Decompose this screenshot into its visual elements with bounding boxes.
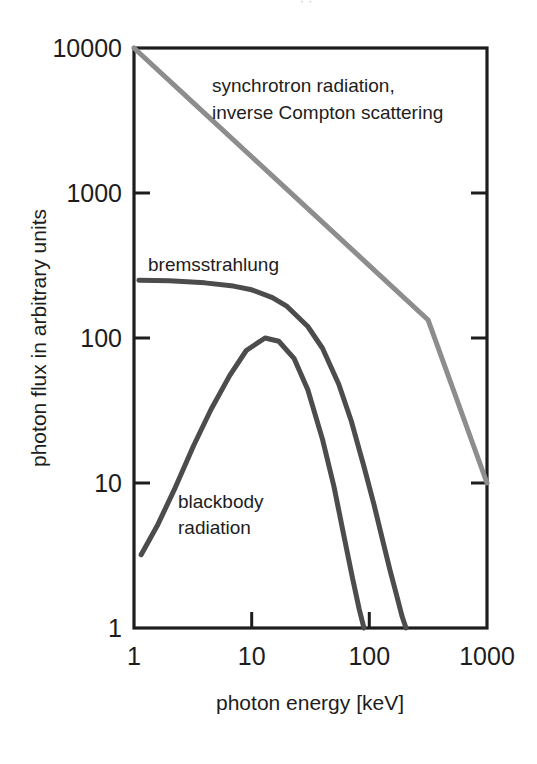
annotation-bremsstrahlung: bremsstrahlung: [148, 254, 279, 275]
y-axis-ticks-left: [134, 193, 150, 483]
y-tick-label-10000: 10000: [52, 34, 122, 62]
annotation-synchrotron-line2: inverse Compton scattering: [212, 102, 443, 123]
y-axis-title: photon flux in arbitrary units: [27, 209, 50, 467]
series-blackbody-line: [141, 338, 364, 628]
annotation-blackbody: blackbody radiation: [178, 491, 264, 538]
chart-svg: 10000 1000 100 10 1 1 10 100 1000 photon…: [0, 0, 537, 764]
x-tick-label-10: 10: [238, 642, 266, 670]
x-tick-label-100: 100: [348, 642, 390, 670]
y-tick-label-100: 100: [80, 324, 122, 352]
y-tick-label-1: 1: [108, 614, 122, 642]
x-tick-label-1000: 1000: [459, 642, 515, 670]
y-tick-label-1000: 1000: [66, 179, 122, 207]
annotation-blackbody-line1: blackbody: [178, 491, 264, 512]
y-tick-label-10: 10: [94, 469, 122, 497]
x-tick-label-1: 1: [127, 642, 141, 670]
annotation-synchrotron-line1: synchrotron radiation,: [212, 75, 395, 96]
figure-container: · · 10000 1000 100 10 1 1 10 100: [0, 0, 537, 764]
page-bleed-text: · ·: [300, 0, 530, 8]
series-group: [134, 48, 487, 628]
series-bremsstrahlung-line: [139, 280, 406, 628]
x-axis-ticks: [252, 612, 370, 628]
annotation-blackbody-line2: radiation: [178, 517, 251, 538]
annotation-synchrotron: synchrotron radiation, inverse Compton s…: [212, 75, 443, 123]
x-axis-title: photon energy [keV]: [216, 691, 404, 714]
annotation-bremsstrahlung-line1: bremsstrahlung: [148, 254, 279, 275]
